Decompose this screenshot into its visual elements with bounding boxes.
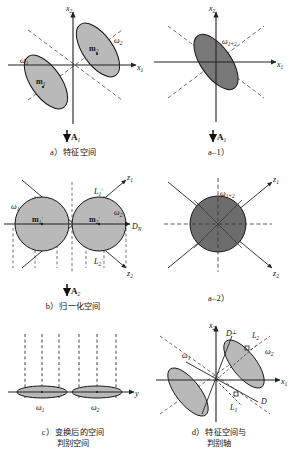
panel-b-svg: z1 z2 DN ω1 ω2 m1′ m2′: [0, 172, 146, 287]
caption-c-text: 变换后的空间: [55, 427, 104, 437]
panel-a2-svg: z1 z2 ω1+2: [146, 172, 292, 287]
axis-label-DN: DN: [131, 222, 142, 232]
discriminant-axis-Dperp: [202, 336, 232, 414]
caption-c-label: c）: [42, 427, 55, 437]
axis-label-x2: x2: [208, 321, 216, 331]
caption-d-text2: 判别轴: [146, 438, 292, 448]
figure-root: x1 x2 ω1 ω2 m1 m2: [0, 0, 292, 469]
caption-c-text2: 判别空间: [0, 438, 146, 448]
caption-a2-label: a–2）: [208, 293, 230, 303]
cluster-label-omega1plus2: ω1+2: [220, 189, 235, 199]
cluster-label-omega2: ω2: [91, 403, 100, 413]
label-L2: L2: [251, 331, 259, 341]
panel-a1: x1 x2 ω1+2: [146, 0, 292, 135]
panel-d-svg: x1 x2 D⊥ D L1 L2 ω1 ω2: [146, 322, 292, 427]
axis-label-z2: z2: [272, 269, 279, 279]
label-Dperp: D⊥: [225, 329, 237, 339]
panel-c-svg: y ω1 ω2: [0, 326, 146, 426]
axis-label-y: y: [134, 389, 139, 398]
caption-panel-a2: a–2）: [146, 293, 292, 303]
caption-panel-c: c）变换后的空间 判别空间: [0, 427, 146, 448]
cluster-label-omega1: ω1: [36, 403, 45, 413]
cluster-label-omega1: ω1: [11, 202, 20, 212]
caption-panel-d: d）特征空间与 判别轴: [146, 427, 292, 448]
caption-b-label: b）: [46, 301, 60, 311]
caption-panel-a: a）特征空间: [0, 147, 146, 157]
panel-c: y ω1 ω2: [0, 326, 146, 426]
cluster-omega1: [161, 362, 216, 422]
panel-a2: z1 z2 ω1+2: [146, 172, 292, 287]
caption-d-text: 特征空间与: [205, 427, 246, 437]
panel-b: z1 z2 DN ω1 ω2 m1′ m2′: [0, 172, 146, 287]
label-D: D: [260, 397, 267, 406]
axis-label-x2: x2: [208, 4, 216, 14]
axis-label-x1: x1: [136, 63, 144, 73]
caption-a1-label: a–1）: [208, 147, 230, 157]
transform-label-A1: A1: [71, 132, 81, 143]
axis-label-z1: z1: [126, 173, 133, 183]
axis-label-x1: x1: [280, 377, 288, 387]
cluster-label-omega1plus2: ω1+2: [222, 37, 237, 47]
axis-label-x2: x2: [65, 4, 73, 14]
caption-a-label: a）: [50, 147, 63, 157]
panel-d: x1 x2 D⊥ D L1 L2 ω1 ω2: [146, 322, 292, 427]
tangent-label-L2-prime: L2′: [93, 257, 103, 267]
transform-label-A2: A2: [71, 286, 81, 297]
axis-label-x1: x1: [276, 60, 284, 70]
label-L1: L1: [229, 403, 237, 413]
cluster-label-omega2: ω2: [265, 347, 274, 357]
caption-panel-b: b）归一化空间: [0, 301, 146, 311]
cluster-label-omega2: ω2: [114, 36, 123, 46]
panel-a: x1 x2 ω1 ω2 m1 m2: [0, 0, 146, 135]
caption-panel-a1: a–1）: [146, 147, 292, 157]
caption-b-text: 归一化空间: [59, 301, 100, 311]
transform-label-A1: A1: [217, 132, 227, 143]
caption-d-label: d）: [192, 427, 206, 437]
axis-label-z1: z1: [272, 175, 279, 185]
cluster-label-omega1: ω1: [182, 351, 191, 361]
axis-label-z2: z2: [126, 269, 133, 279]
panel-a-svg: x1 x2 ω1 ω2 m1 m2: [0, 0, 146, 135]
cluster-omega2: [217, 334, 272, 394]
caption-a-text: 特征空间: [63, 147, 96, 157]
tangent-label-L1-prime: L1′: [93, 187, 103, 197]
tangent-marker-L1: [234, 392, 238, 396]
panel-a1-svg: x1 x2 ω1+2: [146, 0, 292, 135]
